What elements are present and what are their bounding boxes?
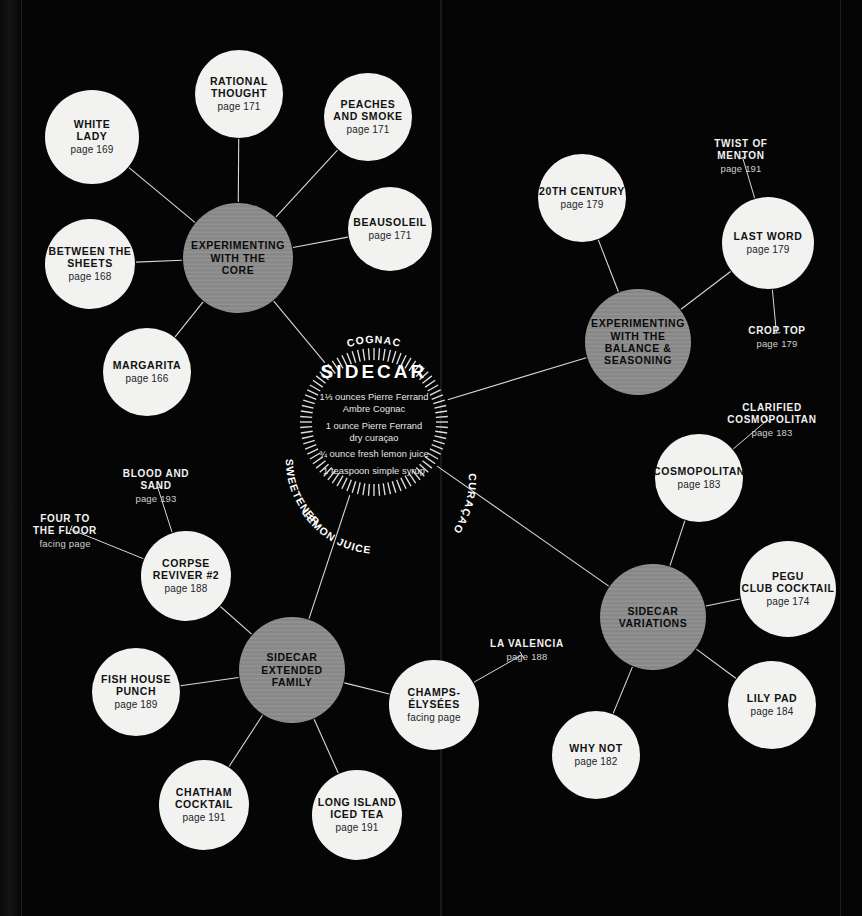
node-page-reference: page 171 (369, 230, 412, 242)
node-title: WHY NOT (569, 742, 622, 754)
recipe-line-3: 1 teaspoon simple syrup (319, 466, 429, 478)
label-title: TWIST OF MENTON (661, 138, 821, 162)
node-title: SIDECAR EXTENDED FAMILY (261, 651, 322, 688)
node-page-reference: page 179 (561, 199, 604, 211)
node-page-reference: page 184 (751, 706, 794, 718)
recipe-line-0: 1⅓ ounces Pierre Ferrand Ambre Cognac (319, 392, 429, 416)
link-family-to-champs-elysees (344, 683, 389, 694)
link-family-to-corpse-reviver-2 (220, 607, 251, 635)
node-title: CHAMPS- ÉLYSÉES (407, 686, 460, 711)
node-title: LAST WORD (734, 230, 803, 242)
link-balance-to-20th-century (598, 240, 618, 292)
link-family-to-chatham-cocktail (229, 715, 262, 766)
node-title: BEAUSOLEIL (353, 216, 426, 228)
cocktail-node-long-island[interactable]: LONG ISLAND ICED TEApage 191 (312, 770, 402, 860)
link-family-to-long-island (314, 719, 338, 773)
cocktail-node-pegu-club[interactable]: PEGU CLUB COCKTAILpage 174 (740, 541, 836, 637)
hub-node-family[interactable]: SIDECAR EXTENDED FAMILY (239, 617, 345, 723)
link-core-to-margarita (175, 302, 203, 337)
link-balance-to-last-word (681, 272, 731, 310)
node-title: LILY PAD (747, 692, 798, 704)
link-core-to-beausoleil (293, 237, 348, 247)
page-edge-line-left (21, 0, 22, 916)
cocktail-node-last-word[interactable]: LAST WORDpage 179 (722, 197, 814, 289)
node-page-reference: page 168 (69, 271, 112, 283)
page-spine-shading (0, 0, 22, 916)
text-label-crop-top[interactable]: CROP TOPpage 179 (697, 325, 857, 349)
node-page-reference: page 174 (767, 596, 810, 608)
node-page-reference: page 182 (575, 756, 618, 768)
node-title: FISH HOUSE PUNCH (101, 673, 171, 698)
node-title: SIDECAR VARIATIONS (619, 605, 687, 630)
label-title: FOUR TO THE FLOOR (0, 513, 145, 537)
node-title: PEGU CLUB COCKTAIL (741, 570, 834, 595)
cocktail-node-between-the-sheets[interactable]: BETWEEN THE SHEETSpage 168 (45, 219, 135, 309)
cocktail-node-cosmopolitan[interactable]: COSMOPOLITANpage 183 (655, 434, 743, 522)
node-title: 20TH CENTURY (539, 185, 625, 197)
node-page-reference: page 171 (218, 101, 261, 113)
text-label-four-to-the-floor[interactable]: FOUR TO THE FLOORfacing page (0, 513, 145, 549)
node-page-reference: page 179 (747, 244, 790, 256)
node-page-reference: facing page (407, 712, 460, 724)
cocktail-node-why-not[interactable]: WHY NOTpage 182 (552, 711, 640, 799)
link-variations-to-pegu-club (706, 599, 740, 606)
text-label-twist-of-menton[interactable]: TWIST OF MENTONpage 191 (661, 138, 821, 174)
label-page-reference: page 188 (447, 651, 607, 662)
node-title: BETWEEN THE SHEETS (49, 245, 132, 270)
label-title: CROP TOP (697, 325, 857, 337)
link-variations-to-why-not (613, 667, 632, 714)
node-title: COSMOPOLITAN (653, 465, 745, 477)
cocktail-node-lily-pad[interactable]: LILY PADpage 184 (728, 661, 816, 749)
node-title: MARGARITA (113, 359, 182, 371)
label-page-reference: page 179 (697, 338, 857, 349)
cocktail-node-rational-thought[interactable]: RATIONAL THOUGHTpage 171 (195, 50, 283, 138)
recipe-title: SIDECAR (321, 361, 428, 383)
node-page-reference: page 166 (126, 373, 169, 385)
text-label-blood-and-sand[interactable]: BLOOD AND SANDpage 193 (76, 468, 236, 504)
node-title: WHITE LADY (74, 118, 111, 143)
link-core-to-white-lady (129, 168, 195, 223)
recipe-ingredient-list: 1⅓ ounces Pierre Ferrand Ambre Cognac1 o… (319, 392, 429, 483)
hub-node-variations[interactable]: SIDECAR VARIATIONS (600, 564, 706, 670)
node-page-reference: page 183 (678, 479, 721, 491)
cocktail-node-corpse-reviver-2[interactable]: CORPSE REVIVER #2page 188 (141, 531, 231, 621)
node-page-reference: page 191 (183, 812, 226, 824)
cocktail-node-margarita[interactable]: MARGARITApage 166 (103, 328, 191, 416)
link-core-to-peaches-and-smoke (276, 150, 338, 217)
cocktail-node-20th-century[interactable]: 20TH CENTURYpage 179 (538, 154, 626, 242)
node-page-reference: page 189 (115, 699, 158, 711)
cocktail-node-fish-house-punch[interactable]: FISH HOUSE PUNCHpage 189 (92, 648, 180, 736)
recipe-line-1: 1 ounce Pierre Ferrand dry curaçao (319, 421, 429, 445)
node-title: LONG ISLAND ICED TEA (318, 796, 397, 821)
label-page-reference: page 193 (76, 493, 236, 504)
cocktail-node-chatham-cocktail[interactable]: CHATHAM COCKTAILpage 191 (159, 760, 249, 850)
node-title: EXPERIMENTING WITH THE CORE (191, 239, 285, 276)
cocktail-node-champs-elysees[interactable]: CHAMPS- ÉLYSÉESfacing page (389, 660, 479, 750)
diagram-canvas: COGNAC SWEETENER LEMON JUICE CURAÇAO SID… (0, 0, 862, 916)
node-page-reference: page 171 (347, 124, 390, 136)
text-label-clarified-cosmopolitan[interactable]: CLARIFIED COSMOPOLITANpage 183 (692, 402, 852, 438)
node-page-reference: page 188 (165, 583, 208, 595)
node-page-reference: page 169 (71, 144, 114, 156)
node-title: RATIONAL THOUGHT (210, 75, 268, 100)
link-variations-to-lily-pad (696, 649, 735, 678)
cocktail-node-beausoleil[interactable]: BEAUSOLEILpage 171 (348, 187, 432, 271)
node-page-reference: page 191 (336, 822, 379, 834)
label-page-reference: facing page (0, 538, 145, 549)
link-variations-to-cosmopolitan (670, 521, 685, 566)
label-page-reference: page 183 (692, 427, 852, 438)
label-page-reference: page 191 (661, 163, 821, 174)
node-title: EXPERIMENTING WITH THE BALANCE & SEASONI… (591, 317, 685, 367)
label-title: CLARIFIED COSMOPOLITAN (692, 402, 852, 426)
link-core-to-between-the-sheets (136, 260, 182, 262)
link-family-to-fish-house-punch (181, 678, 239, 686)
cocktail-node-white-lady[interactable]: WHITE LADYpage 169 (45, 90, 139, 184)
node-title: CHATHAM COCKTAIL (175, 786, 233, 811)
hub-node-core[interactable]: EXPERIMENTING WITH THE CORE (183, 203, 293, 313)
node-title: CORPSE REVIVER #2 (153, 557, 219, 582)
hub-node-balance[interactable]: EXPERIMENTING WITH THE BALANCE & SEASONI… (585, 289, 691, 395)
cocktail-node-peaches-and-smoke[interactable]: PEACHES AND SMOKEpage 171 (324, 73, 412, 161)
node-title: PEACHES AND SMOKE (333, 98, 402, 123)
page-edge-line-right (840, 0, 841, 916)
text-label-la-valencia[interactable]: LA VALENCIApage 188 (447, 638, 607, 662)
